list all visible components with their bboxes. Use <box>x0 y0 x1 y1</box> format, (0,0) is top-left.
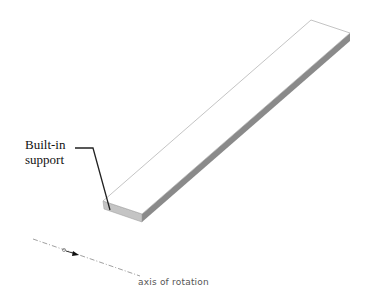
callout-line2: support <box>25 152 65 167</box>
axis-of-rotation-line <box>33 239 140 276</box>
arrow-head-icon <box>72 251 79 256</box>
beam-top-face <box>103 20 350 214</box>
callout-line1: Built-in <box>25 137 65 152</box>
axis-of-rotation-label: axis of rotation <box>138 277 209 287</box>
callout-label: Built-in support <box>25 137 65 167</box>
beam-side-face <box>142 33 350 222</box>
